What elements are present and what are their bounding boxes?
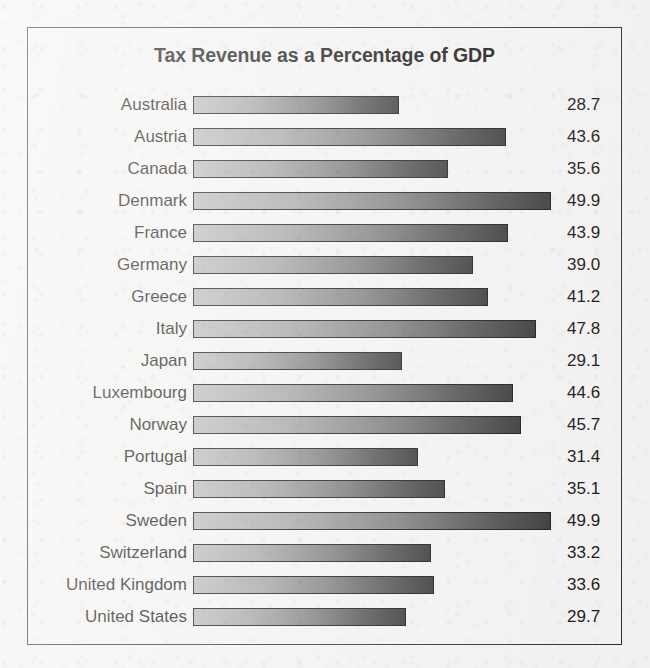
bar-category-label: Germany (28, 255, 187, 275)
bar-value-label: 33.2 (567, 543, 600, 563)
bar-value-label: 29.1 (567, 351, 600, 371)
chart-frame: Tax Revenue as a Percentage of GDP Austr… (27, 27, 622, 645)
bar-row: Australia28.7 (28, 89, 621, 121)
bar-value-label: 39.0 (567, 255, 600, 275)
bar-value-label: 33.6 (567, 575, 600, 595)
bar-row: Italy47.8 (28, 313, 621, 345)
bar-track (193, 448, 418, 466)
bar-row: France43.9 (28, 217, 621, 249)
bar (193, 96, 399, 114)
bar-value-label: 35.1 (567, 479, 600, 499)
bar-track (193, 96, 399, 114)
bar-category-label: France (28, 223, 187, 243)
bar-value-label: 35.6 (567, 159, 600, 179)
bar-category-label: Spain (28, 479, 187, 499)
bar (193, 512, 551, 530)
bar-category-label: Austria (28, 127, 187, 147)
bar-value-label: 44.6 (567, 383, 600, 403)
bar-category-label: Norway (28, 415, 187, 435)
bar-value-label: 41.2 (567, 287, 600, 307)
bar (193, 384, 513, 402)
bar-track (193, 416, 521, 434)
bar (193, 480, 445, 498)
bar-category-label: Greece (28, 287, 187, 307)
bar (193, 192, 551, 210)
bar-row: Luxembourg44.6 (28, 377, 621, 409)
bar-track (193, 256, 473, 274)
bar-track (193, 352, 402, 370)
bar-row: Sweden49.9 (28, 505, 621, 537)
bar-value-label: 43.9 (567, 223, 600, 243)
bar-track (193, 224, 508, 242)
bar-track (193, 192, 551, 210)
bar-row: Japan29.1 (28, 345, 621, 377)
bar-value-label: 45.7 (567, 415, 600, 435)
bar-track (193, 160, 448, 178)
bar-category-label: United Kingdom (28, 575, 187, 595)
bar-row: Spain35.1 (28, 473, 621, 505)
bar (193, 576, 434, 594)
bar-chart-plot-area: Australia28.7Austria43.6Canada35.6Denmar… (28, 89, 621, 633)
bar (193, 224, 508, 242)
bar-value-label: 31.4 (567, 447, 600, 467)
bar-row: United Kingdom33.6 (28, 569, 621, 601)
bar-category-label: Luxembourg (28, 383, 187, 403)
bar-value-label: 49.9 (567, 191, 600, 211)
bar (193, 448, 418, 466)
bar (193, 160, 448, 178)
bar-category-label: Denmark (28, 191, 187, 211)
bar-category-label: Canada (28, 159, 187, 179)
bar-track (193, 384, 513, 402)
bar-track (193, 128, 506, 146)
bar-row: Norway45.7 (28, 409, 621, 441)
bar-value-label: 28.7 (567, 95, 600, 115)
bar-category-label: Japan (28, 351, 187, 371)
bar (193, 544, 431, 562)
bar-row: Austria43.6 (28, 121, 621, 153)
bar-category-label: Sweden (28, 511, 187, 531)
bar-value-label: 47.8 (567, 319, 600, 339)
bar-track (193, 480, 445, 498)
bar-row: Denmark49.9 (28, 185, 621, 217)
bar (193, 320, 536, 338)
chart-title: Tax Revenue as a Percentage of GDP (28, 44, 621, 67)
bar-category-label: Italy (28, 319, 187, 339)
bar-row: Canada35.6 (28, 153, 621, 185)
bar-track (193, 544, 431, 562)
bar-category-label: Portugal (28, 447, 187, 467)
bar-track (193, 320, 536, 338)
bar-category-label: United States (28, 607, 187, 627)
bar-row: Germany39.0 (28, 249, 621, 281)
bar-category-label: Australia (28, 95, 187, 115)
bar-value-label: 49.9 (567, 511, 600, 531)
bar-value-label: 43.6 (567, 127, 600, 147)
bar (193, 288, 488, 306)
bar-category-label: Switzerland (28, 543, 187, 563)
bar (193, 608, 406, 626)
bar (193, 256, 473, 274)
bar-value-label: 29.7 (567, 607, 600, 627)
bar-row: United States29.7 (28, 601, 621, 633)
bar (193, 352, 402, 370)
bar-row: Switzerland33.2 (28, 537, 621, 569)
bar-track (193, 576, 434, 594)
bar (193, 416, 521, 434)
bar-track (193, 608, 406, 626)
bar-row: Portugal31.4 (28, 441, 621, 473)
bar-track (193, 512, 551, 530)
bar-track (193, 288, 488, 306)
bar-row: Greece41.2 (28, 281, 621, 313)
bar (193, 128, 506, 146)
